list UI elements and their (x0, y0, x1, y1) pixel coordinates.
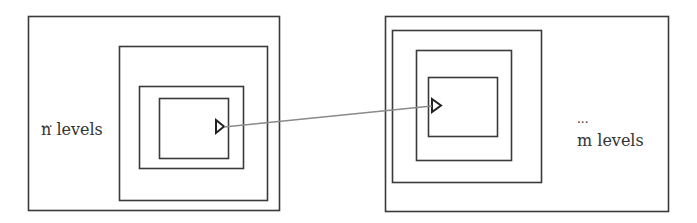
left-levels-label: n levels (41, 121, 103, 139)
left-hierarchy (29, 17, 280, 211)
left-level-1-box (29, 17, 280, 211)
nested-hierarchy-diagram (0, 0, 697, 223)
left-port-triangle-icon (216, 120, 224, 133)
right-ellipsis: ... (577, 114, 588, 124)
right-level-2-box (393, 31, 542, 183)
connection-link (224, 106, 432, 127)
left-level-2-box (120, 47, 268, 201)
right-levels-label: m levels (577, 132, 644, 150)
right-hierarchy (386, 17, 669, 212)
right-port-triangle-icon (432, 99, 441, 112)
